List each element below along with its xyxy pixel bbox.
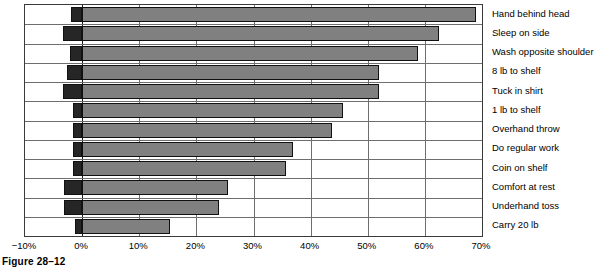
row-separator xyxy=(25,63,482,64)
category-label: Do regular work xyxy=(492,143,559,153)
x-tick-label: 10% xyxy=(129,240,148,252)
x-tick-label: −10% xyxy=(12,240,37,252)
category-label: Underhand toss xyxy=(492,201,559,211)
row-separator xyxy=(25,82,482,83)
category-label: Comfort at rest xyxy=(492,182,555,192)
bar-segment-positive xyxy=(82,7,476,22)
bar-segment-negative xyxy=(73,161,82,176)
row-separator xyxy=(25,178,482,179)
category-label: Overhand throw xyxy=(492,124,560,134)
category-label: 8 lb to shelf xyxy=(492,66,541,76)
x-tick-label: 0% xyxy=(74,240,88,252)
bar-segment-positive xyxy=(82,161,286,176)
bar-segment-positive xyxy=(82,142,293,157)
bar-segment-positive xyxy=(82,46,418,61)
bar-segment-positive xyxy=(82,219,170,234)
row-separator xyxy=(25,101,482,102)
bar-segment-negative xyxy=(63,84,82,99)
bar-segment-negative xyxy=(73,142,82,157)
bar-segment-negative xyxy=(71,7,82,22)
bar-segment-negative xyxy=(64,200,82,215)
bar-segment-positive xyxy=(82,200,219,215)
figure-caption: Figure 28–12 xyxy=(2,256,66,267)
chart-plot-area xyxy=(24,4,483,237)
category-label: Hand behind head xyxy=(492,9,570,19)
bar-segment-positive xyxy=(82,123,332,138)
bar-row xyxy=(25,161,482,176)
x-tick-label: 20% xyxy=(186,240,205,252)
bar-segment-negative xyxy=(70,46,83,61)
row-separator xyxy=(25,159,482,160)
bar-row xyxy=(25,26,482,41)
bar-segment-negative xyxy=(63,26,82,41)
x-tick-label: 50% xyxy=(357,240,376,252)
x-tick-label: 30% xyxy=(243,240,262,252)
category-label: Sleep on side xyxy=(492,28,550,38)
bar-row xyxy=(25,142,482,157)
row-separator xyxy=(25,140,482,141)
bar-segment-negative xyxy=(73,103,82,118)
bar-segment-negative xyxy=(64,180,82,195)
bar-row xyxy=(25,103,482,118)
category-label: 1 lb to shelf xyxy=(492,105,541,115)
bar-row xyxy=(25,7,482,22)
category-label: Carry 20 lb xyxy=(492,220,538,230)
bar-row xyxy=(25,219,482,234)
bar-segment-positive xyxy=(82,180,228,195)
bar-segment-negative xyxy=(73,123,82,138)
bar-row xyxy=(25,200,482,215)
category-label: Coin on shelf xyxy=(492,163,547,173)
bar-segment-positive xyxy=(82,103,342,118)
row-separator xyxy=(25,217,482,218)
x-tick-label: 60% xyxy=(414,240,433,252)
category-label-list: Hand behind headSleep on sideWash opposi… xyxy=(492,4,616,237)
bar-row xyxy=(25,84,482,99)
bar-segment-negative xyxy=(75,219,82,234)
figure-container: Hand behind headSleep on sideWash opposi… xyxy=(0,0,616,271)
bar-row xyxy=(25,65,482,80)
bar-segment-negative xyxy=(67,65,82,80)
category-label: Tuck in shirt xyxy=(492,86,543,96)
bar-segment-positive xyxy=(82,26,439,41)
bar-row xyxy=(25,123,482,138)
x-tick-label: 40% xyxy=(300,240,319,252)
row-separator xyxy=(25,24,482,25)
category-label: Wash opposite shoulder xyxy=(492,47,594,57)
x-tick-label: 70% xyxy=(471,240,490,252)
bar-segment-positive xyxy=(82,84,379,99)
bar-segment-positive xyxy=(82,65,379,80)
bar-row xyxy=(25,180,482,195)
x-axis-tick-labels: −10%0%10%20%30%40%50%60%70% xyxy=(0,240,500,254)
bar-row xyxy=(25,46,482,61)
